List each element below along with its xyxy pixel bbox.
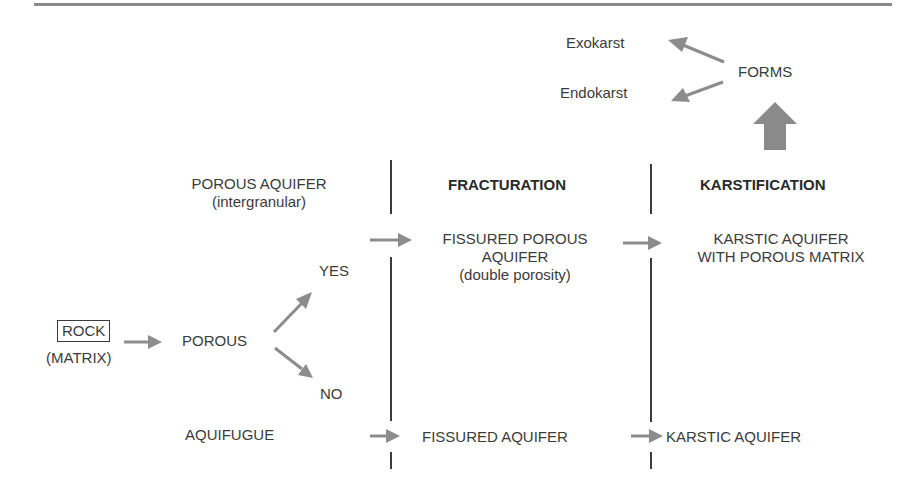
separator-karstification-top bbox=[650, 164, 652, 214]
arrow-porous-to-fissured-porous-icon bbox=[370, 233, 412, 247]
endokarst-label: Endokarst bbox=[560, 84, 628, 102]
yes-label: YES bbox=[319, 262, 349, 280]
arrow-fissured-porous-to-karstic-icon bbox=[623, 236, 662, 250]
porous-aquifer-subtitle: (intergranular) bbox=[184, 193, 334, 211]
rock-box: ROCK bbox=[57, 320, 110, 342]
karstic-porous-line1: KARSTIC AQUIFER bbox=[665, 230, 897, 248]
karstic-aquifer-label: KARSTIC AQUIFER bbox=[666, 428, 801, 446]
karstic-porous-line2: WITH POROUS MATRIX bbox=[665, 248, 897, 266]
fissured-aquifer-label: FISSURED AQUIFER bbox=[422, 428, 568, 446]
arrow-porous-to-no-icon bbox=[275, 348, 313, 378]
exokarst-label: Exokarst bbox=[566, 34, 624, 52]
aquifugue-label: AQUIFUGUE bbox=[185, 426, 274, 444]
arrow-forms-to-exokarst-icon bbox=[668, 37, 724, 62]
arrow-rock-to-porous-icon bbox=[124, 335, 162, 349]
separator-karstification-bottom bbox=[650, 452, 652, 469]
fissured-porous-line2: AQUIFER bbox=[420, 248, 610, 266]
arrow-porous-to-yes-icon bbox=[274, 292, 312, 332]
separator-karstification-mid bbox=[650, 258, 652, 422]
porous-aquifer-title: POROUS AQUIFER bbox=[184, 175, 334, 193]
forms-label: FORMS bbox=[738, 63, 792, 81]
arrow-fissured-to-karstic-icon bbox=[631, 429, 663, 443]
separator-fracturation-top bbox=[390, 160, 392, 214]
fissured-porous-line1: FISSURED POROUS bbox=[420, 230, 610, 248]
rock-matrix-label: (MATRIX) bbox=[46, 349, 112, 367]
separator-fracturation-bottom bbox=[390, 452, 392, 469]
fissured-porous-sublabel: (double porosity) bbox=[420, 266, 610, 284]
separator-fracturation-mid bbox=[390, 257, 392, 421]
arrow-aquifugue-to-fissured-icon bbox=[370, 429, 400, 443]
big-up-arrow-icon bbox=[753, 102, 797, 150]
karstic-porous-matrix-label: KARSTIC AQUIFER WITH POROUS MATRIX bbox=[665, 230, 897, 266]
fissured-porous-aquifer-label: FISSURED POROUS AQUIFER (double porosity… bbox=[420, 230, 610, 284]
column-header-fracturation: FRACTURATION bbox=[448, 176, 566, 194]
porous-label: POROUS bbox=[182, 332, 247, 350]
porous-aquifer-label: POROUS AQUIFER (intergranular) bbox=[184, 175, 334, 211]
arrow-forms-to-endokarst-icon bbox=[671, 82, 723, 102]
column-header-karstification: KARSTIFICATION bbox=[700, 176, 826, 194]
no-label: NO bbox=[320, 385, 343, 403]
